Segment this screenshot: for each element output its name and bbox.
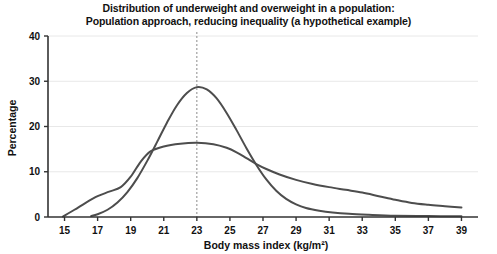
y-axis-title: Percentage bbox=[6, 100, 18, 157]
x-tick-label: 29 bbox=[291, 225, 303, 236]
x-tick-label: 31 bbox=[324, 225, 336, 236]
x-axis-title: Body mass index (kg/m²) bbox=[204, 239, 328, 251]
y-tick-label: 20 bbox=[29, 121, 41, 132]
x-tick-label: 21 bbox=[158, 225, 170, 236]
x-tick-label: 35 bbox=[390, 225, 402, 236]
x-tick-label: 19 bbox=[125, 225, 137, 236]
series-line-2 bbox=[63, 143, 462, 217]
y-tick-label: 0 bbox=[34, 212, 40, 223]
x-tick-label: 17 bbox=[92, 225, 104, 236]
x-tick-label: 27 bbox=[257, 225, 269, 236]
gridlines bbox=[48, 36, 478, 172]
y-tick-label: 10 bbox=[29, 166, 41, 177]
ticks-layer: 01020304015171921232527293133353739 bbox=[29, 31, 468, 237]
x-tick-label: 25 bbox=[224, 225, 236, 236]
x-tick-label: 15 bbox=[59, 225, 71, 236]
x-tick-label: 39 bbox=[456, 225, 468, 236]
chart-figure: Distribution of underweight and overweig… bbox=[0, 0, 497, 254]
x-tick-label: 23 bbox=[191, 225, 203, 236]
x-tick-label: 37 bbox=[423, 225, 435, 236]
series-line-1 bbox=[91, 87, 461, 216]
x-tick-label: 33 bbox=[357, 225, 369, 236]
y-tick-label: 30 bbox=[29, 76, 41, 87]
line-chart-plot: 01020304015171921232527293133353739 Perc… bbox=[0, 0, 497, 254]
series-layer bbox=[63, 87, 462, 217]
y-tick-label: 40 bbox=[29, 31, 41, 42]
